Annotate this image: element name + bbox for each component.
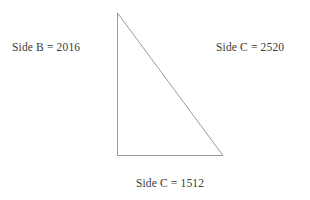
triangle-figure [0,0,310,200]
side-c-bottom-label: Side C = 1512 [117,177,223,190]
side-c-right-label: Side C = 2520 [216,41,284,54]
triangle-hypotenuse [118,13,224,156]
triangle-diagram-page: Side B = 2016 Side C = 2520 Side C = 151… [0,0,310,200]
side-b-label: Side B = 2016 [12,41,80,54]
